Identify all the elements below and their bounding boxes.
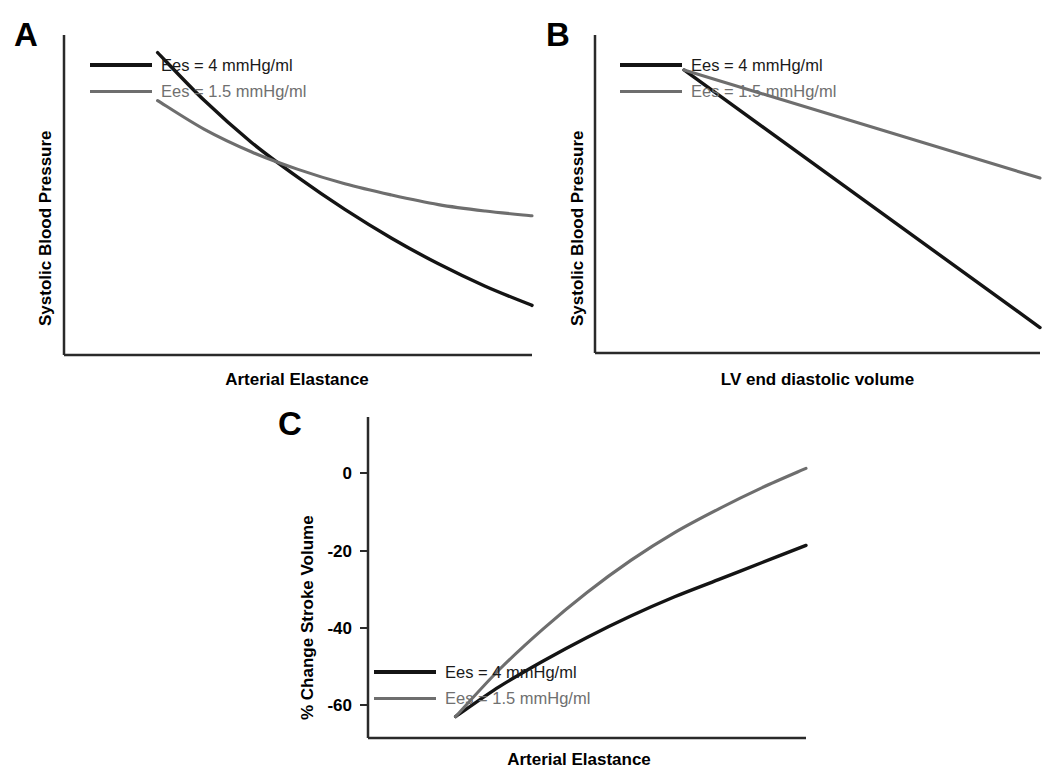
panel-c-plot bbox=[250, 395, 820, 782]
legend-entry-black: Ees = 4 mmHg/ml bbox=[90, 52, 306, 78]
panel-c-ytick-0: 0 bbox=[306, 464, 352, 484]
panel-b: B Systolic Blood Pressure LV end diastol… bbox=[520, 0, 1044, 400]
legend-entry-black: Ees = 4 mmHg/ml bbox=[620, 52, 836, 78]
legend-line-black-icon bbox=[374, 670, 436, 674]
legend-label-gray: Ees = 1.5 mmHg/ml bbox=[691, 83, 836, 100]
legend-label-black: Ees = 4 mmHg/ml bbox=[691, 57, 823, 74]
panel-a-legend: Ees = 4 mmHg/ml Ees = 1.5 mmHg/ml bbox=[90, 52, 306, 104]
panel-b-x-axis-title: LV end diastolic volume bbox=[595, 370, 1040, 390]
legend-line-gray-icon bbox=[90, 90, 152, 93]
legend-label-gray: Ees = 1.5 mmHg/ml bbox=[445, 690, 590, 707]
panel-a-x-axis-title: Arterial Elastance bbox=[64, 370, 530, 390]
panel-c-x-axis-title: Arterial Elastance bbox=[353, 750, 805, 770]
panel-c-legend: Ees = 4 mmHg/ml Ees = 1.5 mmHg/ml bbox=[374, 659, 590, 711]
panel-b-series-black bbox=[684, 70, 1040, 328]
legend-line-gray-icon bbox=[620, 90, 682, 93]
legend-entry-black: Ees = 4 mmHg/ml bbox=[374, 659, 590, 685]
legend-entry-gray: Ees = 1.5 mmHg/ml bbox=[374, 685, 590, 711]
panel-c: C % Change Stroke Volume Arterial Elasta… bbox=[250, 395, 820, 782]
panel-b-legend: Ees = 4 mmHg/ml Ees = 1.5 mmHg/ml bbox=[620, 52, 836, 104]
panel-a: A Systolic Blood Pressure Arterial Elast… bbox=[0, 0, 540, 400]
legend-entry-gray: Ees = 1.5 mmHg/ml bbox=[90, 78, 306, 104]
panel-c-ytick-minus60: -60 bbox=[306, 696, 352, 716]
legend-label-black: Ees = 4 mmHg/ml bbox=[161, 57, 293, 74]
panel-a-y-axis-title: Systolic Blood Pressure bbox=[36, 130, 56, 326]
panel-c-letter: C bbox=[278, 407, 302, 440]
legend-line-black-icon bbox=[620, 63, 682, 67]
panel-c-ytick-minus20: -20 bbox=[306, 542, 352, 562]
legend-label-gray: Ees = 1.5 mmHg/ml bbox=[161, 83, 306, 100]
panel-a-letter: A bbox=[14, 18, 38, 51]
legend-entry-gray: Ees = 1.5 mmHg/ml bbox=[620, 78, 836, 104]
panel-c-ytick-minus40: -40 bbox=[306, 619, 352, 639]
panel-a-series-gray bbox=[158, 101, 532, 216]
legend-line-gray-icon bbox=[374, 697, 436, 700]
figure-root: A Systolic Blood Pressure Arterial Elast… bbox=[0, 0, 1044, 782]
legend-line-black-icon bbox=[90, 63, 152, 67]
legend-label-black: Ees = 4 mmHg/ml bbox=[445, 664, 577, 681]
panel-b-y-axis-title: Systolic Blood Pressure bbox=[568, 130, 588, 326]
panel-b-letter: B bbox=[546, 18, 570, 51]
